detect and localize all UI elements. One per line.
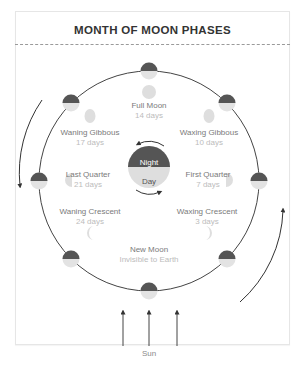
sun-label: Sun (119, 349, 179, 358)
phase-label-new-moon: New Moon Invisible to Earth (104, 245, 194, 265)
waning-gibbous-icon (85, 109, 96, 123)
orbital-moon-bottom (141, 283, 158, 300)
waxing-gibbous-icon (204, 109, 215, 123)
moon-orbit-diagram (0, 0, 298, 383)
phase-label-last-quarter: Last Quarter 21 days (43, 170, 133, 190)
orbital-moon-top-right (219, 95, 236, 112)
earth-rotation-arrow-bottom (136, 190, 160, 194)
night-label: Night (129, 158, 169, 167)
phase-label-full-moon: Full Moon 14 days (104, 101, 194, 121)
orbital-moon-top-left (63, 95, 80, 112)
orbital-moon-bottom-right (219, 251, 236, 268)
waning-crescent-icon (87, 226, 94, 240)
waxing-crescent-icon (205, 226, 212, 240)
phase-label-waning-gibbous: Waning Gibbous 17 days (45, 128, 135, 148)
orbital-moon-top (141, 63, 158, 80)
orbital-moon-right (251, 173, 268, 190)
earth-rotation-arrow-top (138, 141, 164, 146)
phase-label-waxing-gibbous: Waxing Gibbous 10 days (164, 128, 254, 148)
phase-label-waxing-crescent: Waxing Crescent 3 days (162, 207, 252, 227)
phase-label-waning-crescent: Waning Crescent 24 days (45, 207, 135, 227)
phase-label-first-quarter: First Quarter 7 days (163, 170, 253, 190)
orbital-moon-bottom-left (63, 251, 80, 268)
full-moon-icon (142, 85, 156, 99)
